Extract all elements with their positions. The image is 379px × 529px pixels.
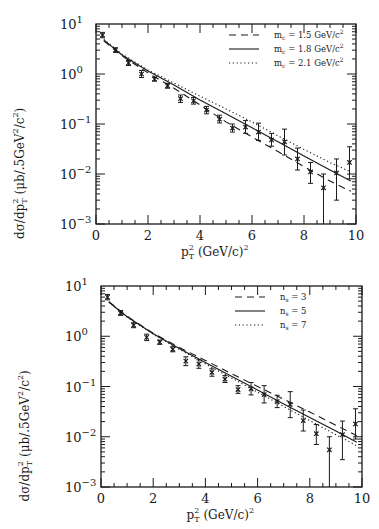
data-point xyxy=(191,97,196,104)
x-tick-label: 2 xyxy=(149,491,157,506)
data-point xyxy=(314,425,319,445)
figure: 024681010110010−110−210−3p2T (GeV/c)2dσ/… xyxy=(0,0,379,529)
y-axis-ticks xyxy=(101,288,362,487)
bottom-chart-panel: 024681010110010−110−210−3p2T (GeV/c)2dσ/… xyxy=(16,276,370,524)
data-point xyxy=(157,340,162,344)
x-axis-label: p2T (GeV/c)2 xyxy=(181,243,249,261)
data-point xyxy=(340,421,345,460)
data-point xyxy=(113,48,118,53)
x-tick-label: 0 xyxy=(92,228,100,243)
data-point xyxy=(321,174,326,224)
theory-curves xyxy=(109,302,357,446)
data-points xyxy=(105,294,358,487)
data-point xyxy=(196,360,201,369)
curve-dashed xyxy=(109,302,357,436)
data-point xyxy=(249,383,254,395)
y-tick-label: 10−2 xyxy=(60,164,91,182)
data-point xyxy=(288,392,293,418)
x-tick-label: 0 xyxy=(97,491,105,506)
x-tick-label: 10 xyxy=(354,491,371,506)
data-point xyxy=(222,376,227,383)
legend-item: ns = 3 xyxy=(235,292,307,303)
y-axis-label: dσ/dp2T (μb/.5GeV2/c2) xyxy=(16,370,34,501)
legend-item: ns = 7 xyxy=(235,320,307,331)
legend-label: ns = 5 xyxy=(280,306,307,317)
legend-item: mc = 1.8 GeV/c2 xyxy=(229,42,344,55)
legend-item: ns = 5 xyxy=(235,306,307,317)
data-point xyxy=(144,334,149,340)
x-tick-label: 10 xyxy=(348,228,365,243)
data-point xyxy=(131,323,136,328)
y-tick-label: 10−1 xyxy=(65,377,96,395)
data-point xyxy=(139,70,144,77)
y-tick-label: 10−3 xyxy=(65,477,96,495)
x-axis-label: p2T (GeV/c)2 xyxy=(187,506,255,524)
y-tick-label: 10−3 xyxy=(60,214,91,232)
data-point xyxy=(100,32,105,37)
legend: ns = 3ns = 5ns = 7 xyxy=(235,292,307,331)
x-tick-label: 4 xyxy=(201,491,209,506)
legend-item: mc = 2.1 GeV/c2 xyxy=(229,56,344,69)
legend-label: ns = 7 xyxy=(280,320,307,331)
legend-label: mc = 2.1 GeV/c2 xyxy=(274,56,344,69)
legend-label: mc = 1.5 GeV/c2 xyxy=(274,28,344,41)
legend-label: ns = 3 xyxy=(280,292,307,303)
x-tick-label: 6 xyxy=(248,228,256,243)
data-point xyxy=(236,386,241,394)
y-tick-label: 101 xyxy=(60,14,83,32)
y-axis-label: dσ/dp2T (μb/.5GeV2/c2) xyxy=(11,108,29,239)
legend-item: mc = 1.5 GeV/c2 xyxy=(229,28,344,41)
y-tick-label: 10−2 xyxy=(65,427,96,445)
y-tick-label: 101 xyxy=(65,276,88,294)
data-point xyxy=(170,347,175,352)
data-point xyxy=(165,83,170,88)
y-axis-ticks xyxy=(96,26,356,224)
data-point xyxy=(327,437,332,487)
x-tick-label: 8 xyxy=(300,228,308,243)
data-point xyxy=(126,61,131,66)
data-point xyxy=(105,294,110,299)
x-axis-ticks xyxy=(101,286,362,487)
data-point xyxy=(183,357,188,366)
data-point xyxy=(152,77,157,81)
y-tick-label: 10−1 xyxy=(60,114,91,132)
top-chart-panel: 024681010110010−110−210−3p2T (GeV/c)2dσ/… xyxy=(11,14,364,261)
data-point xyxy=(209,369,214,376)
data-point xyxy=(282,129,287,155)
data-point xyxy=(308,162,313,183)
plot-frame xyxy=(96,24,356,224)
x-tick-label: 8 xyxy=(306,491,314,506)
x-axis-ticks xyxy=(96,24,356,224)
legend-label: mc = 1.8 GeV/c2 xyxy=(274,42,344,55)
x-tick-label: 4 xyxy=(196,228,204,243)
y-tick-label: 100 xyxy=(65,326,88,344)
plot-frame xyxy=(101,286,362,487)
data-point xyxy=(178,95,183,102)
y-tick-label: 100 xyxy=(60,64,83,82)
x-tick-label: 2 xyxy=(144,228,152,243)
curve-solid xyxy=(109,302,357,442)
data-point xyxy=(243,121,248,134)
legend: mc = 1.5 GeV/c2mc = 1.8 GeV/c2mc = 2.1 G… xyxy=(229,28,344,69)
data-point xyxy=(230,124,235,132)
x-tick-label: 6 xyxy=(253,491,261,506)
